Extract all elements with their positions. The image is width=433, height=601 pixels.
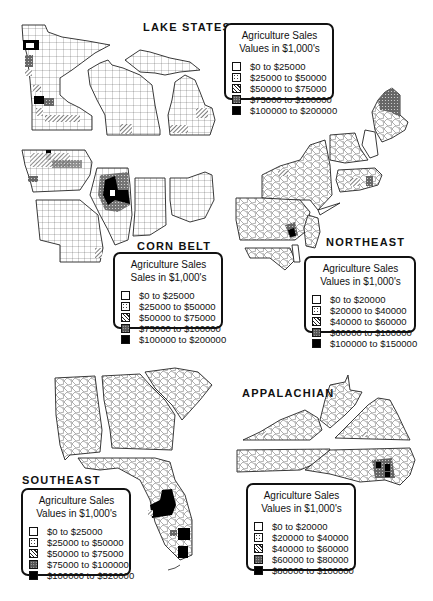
swatch-dotted-icon (254, 533, 263, 542)
appalachian-title: APPALACHIAN (242, 387, 334, 399)
kentucky-shape (243, 410, 322, 440)
appalachian-map (0, 0, 433, 601)
swatch-hatched-icon (254, 544, 263, 553)
swatch-white-icon (254, 522, 263, 531)
swatch-black-icon (254, 566, 263, 575)
swatch-crosshatch-icon (254, 555, 263, 564)
legend-item: $0 to $20000 (254, 521, 349, 532)
legend-title-line2: Values in $1,000's (254, 502, 349, 515)
legend-item: $80000 to $100000 (254, 565, 349, 576)
legend-item: $60000 to $80000 (254, 554, 349, 565)
legend-item: $40000 to $60000 (254, 543, 349, 554)
appalachian-legend: Agriculture Sales Values in $1,000's $0 … (246, 483, 356, 571)
legend-item: $20000 to $40000 (254, 532, 349, 543)
legend-title-line1: Agriculture Sales (254, 489, 349, 502)
